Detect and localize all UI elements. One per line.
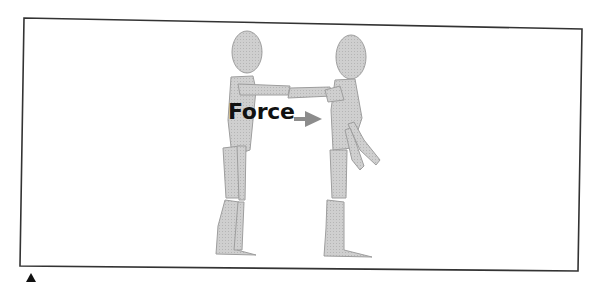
frame-border — [20, 18, 582, 271]
force-label: Force — [228, 99, 295, 124]
caption-marker-icon — [26, 273, 36, 282]
diagram: Force — [0, 0, 594, 282]
force-arrow-icon — [294, 111, 322, 127]
left-figure — [216, 31, 332, 255]
right-figure — [324, 35, 380, 257]
